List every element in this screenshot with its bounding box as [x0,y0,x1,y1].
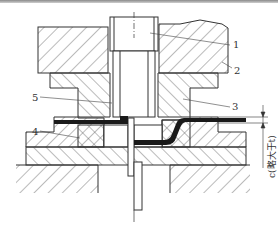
upper-plate-left [38,27,108,73]
upper-plate-right [159,20,228,73]
part-label-5: 5 [32,93,38,103]
central-punch [113,51,155,117]
die-cross-section-drawing [0,0,278,231]
ejector-block [104,125,128,147]
part-label-1: 1 [233,40,239,50]
part-label-2: 2 [234,66,240,76]
base-right [170,165,250,193]
part-label-3: 3 [232,102,238,112]
punch-holder-right [158,73,218,117]
ejector-pin-lower [134,162,142,210]
ejector-pin [128,118,134,176]
part-label-4: 4 [32,127,38,137]
dimension-c-label: c(略大于t) [265,135,278,178]
punch-holder-left [50,73,110,117]
base-left [16,165,98,193]
lower-die-insert-left [78,125,104,147]
